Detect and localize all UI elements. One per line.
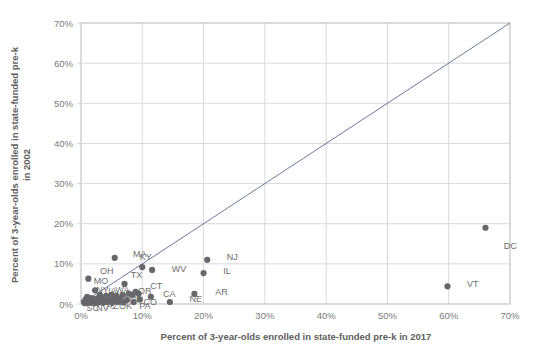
x-tick-label: 70% [500,310,520,321]
y-tick-label: 70% [54,18,74,29]
y-axis-ticks: 0%10%20%30%40%50%60%70% [54,18,81,310]
data-point-DC[interactable] [482,225,488,231]
data-point-WV[interactable] [149,267,155,273]
x-tick-label: 40% [317,310,337,321]
point-label-KY: KY [140,252,152,262]
data-point-NJ[interactable] [204,257,210,263]
y-tick-label: 10% [54,258,74,269]
x-tick-label: 60% [439,310,459,321]
x-tick-label: 30% [255,310,275,321]
x-tick-label: 50% [378,310,398,321]
x-tick-label: 10% [133,310,153,321]
point-label-MO: MO [94,276,109,286]
y-axis-title-line-1: Percent of 3-year-olds enrolled in state… [9,46,20,283]
y-axis-title: Percent of 3-year-olds enrolled in state… [9,46,32,283]
point-label-TX: TX [131,270,143,280]
y-tick-label: 40% [54,138,74,149]
reference-line [81,23,510,304]
y-tick-label: 50% [54,98,74,109]
point-label-IL: IL [223,266,231,276]
point-label-NJ: NJ [227,252,238,262]
point-labels: DCVTNJILARNEMAKYWVOHTXMOCTORCANYIAWANMND… [87,241,518,314]
point-label-VT: VT [467,279,479,289]
point-label-AR: AR [215,287,228,297]
point-label-WV: WV [172,264,187,274]
point-label-NE: NE [189,294,202,304]
point-label-CA: CA [163,289,176,299]
data-point-IL[interactable] [200,270,206,276]
point-label-PA: PA [139,301,150,311]
point-label-OH: OH [100,266,114,276]
point-label-DC: DC [504,241,517,251]
point-label-SC: SC [87,303,100,313]
y-tick-label: 0% [59,299,73,310]
data-point-OH[interactable] [85,276,91,282]
data-point-VT[interactable] [444,283,450,289]
y-tick-label: 20% [54,218,74,229]
x-axis-title: Percent of 3-year-olds enrolled in state… [161,331,432,342]
chart-canvas: 0%10%20%30%40%50%60%70% 0%10%20%30%40%50… [0,0,536,350]
y-tick-label: 30% [54,178,74,189]
point-label-CT: CT [150,281,162,291]
scatter-chart: 0%10%20%30%40%50%60%70% 0%10%20%30%40%50… [0,0,536,350]
data-point-KY[interactable] [139,264,145,270]
point-label-OK: OK [119,301,132,311]
data-point-MA[interactable] [112,255,118,261]
y-axis-title-line-2: in 2002 [21,149,32,181]
x-tick-label: 20% [194,310,214,321]
point-label-NY: NY [96,285,109,295]
y-tick-label: 60% [54,58,74,69]
x-axis-ticks: 0%10%20%30%40%50%60%70% [74,310,520,321]
data-point-NE[interactable] [167,299,173,305]
diagonal-reference-line [81,23,510,304]
